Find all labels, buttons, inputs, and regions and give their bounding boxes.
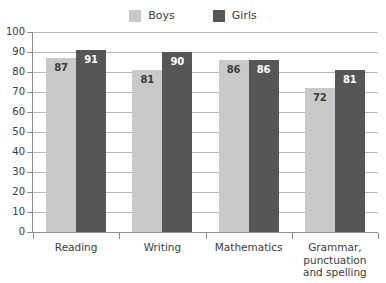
x-category-label: Mathematics (206, 241, 292, 254)
y-tick-label-70: 70 (1, 87, 25, 97)
x-category-label-line: Mathematics (206, 241, 292, 254)
bar-boys[interactable]: 86 (219, 60, 249, 232)
bar-chart: 0102030405060708090100 8791819086867281 … (0, 24, 386, 283)
y-tick-label-wrap-90: 90 (0, 47, 25, 57)
y-tick-label-90: 90 (1, 47, 25, 57)
x-category-label-line: Grammar, (292, 241, 378, 254)
bar-girls[interactable]: 86 (249, 60, 279, 232)
legend-entry-girls[interactable]: Girls (213, 10, 257, 22)
y-tick-label-wrap-80: 80 (0, 67, 25, 77)
x-category-label-line: Reading (33, 241, 119, 254)
x-category-label-line: punctuation (292, 254, 378, 267)
y-tick-label-wrap-40: 40 (0, 147, 25, 157)
x-tick (33, 233, 34, 239)
x-category-label: Reading (33, 241, 119, 254)
legend-label-boys: Boys (148, 10, 175, 22)
y-tick-label-80: 80 (1, 67, 25, 77)
bar-group: 7281 (292, 32, 378, 232)
legend-label-girls: Girls (232, 10, 257, 22)
bar-value-label: 81 (132, 75, 162, 85)
legend-swatch-boys (129, 10, 141, 22)
bar-boys[interactable]: 81 (132, 70, 162, 232)
bar-group: 8791 (33, 32, 119, 232)
bar-value-label: 87 (46, 63, 76, 73)
bar-boys[interactable]: 87 (46, 58, 76, 232)
bar-value-label: 81 (335, 75, 365, 85)
y-tick-label-wrap-0: 0 (0, 227, 25, 237)
bar-value-label: 86 (219, 65, 249, 75)
bar-group: 8686 (206, 32, 292, 232)
y-tick-label-20: 20 (1, 187, 25, 197)
y-tick-label-wrap-10: 10 (0, 207, 25, 217)
legend-swatch-girls (213, 10, 225, 22)
y-tick-label-wrap-60: 60 (0, 107, 25, 117)
y-tick-label-wrap-20: 20 (0, 187, 25, 197)
y-tick-label-50: 50 (1, 127, 25, 137)
plot-area: 8791819086867281 (33, 32, 378, 232)
y-tick-label-0: 0 (1, 227, 25, 237)
x-category-label: Grammar,punctuationand spelling (292, 241, 378, 279)
chart-legend: BoysGirls (0, 6, 386, 26)
x-tick (292, 233, 293, 239)
y-tick-label-wrap-50: 50 (0, 127, 25, 137)
bar-girls[interactable]: 91 (76, 50, 106, 232)
x-category-label-line: and spelling (292, 266, 378, 279)
x-category-label-line: Writing (119, 241, 205, 254)
bar-girls[interactable]: 90 (162, 52, 192, 232)
bar-group: 8190 (119, 32, 205, 232)
y-tick-label-wrap-30: 30 (0, 167, 25, 177)
legend-entry-boys[interactable]: Boys (129, 10, 175, 22)
bar-value-label: 90 (162, 57, 192, 67)
bar-value-label: 72 (305, 93, 335, 103)
bar-value-label: 86 (249, 65, 279, 75)
y-tick-label-100: 100 (1, 27, 25, 37)
bar-girls[interactable]: 81 (335, 70, 365, 232)
bar-boys[interactable]: 72 (305, 88, 335, 232)
x-tick (378, 233, 379, 239)
y-tick-label-40: 40 (1, 147, 25, 157)
y-tick-label-wrap-70: 70 (0, 87, 25, 97)
x-tick (119, 233, 120, 239)
y-tick-label-60: 60 (1, 107, 25, 117)
bar-value-label: 91 (76, 55, 106, 65)
x-category-label: Writing (119, 241, 205, 254)
y-tick-label-wrap-100: 100 (0, 27, 25, 37)
x-tick (206, 233, 207, 239)
y-tick-label-30: 30 (1, 167, 25, 177)
y-tick-label-10: 10 (1, 207, 25, 217)
